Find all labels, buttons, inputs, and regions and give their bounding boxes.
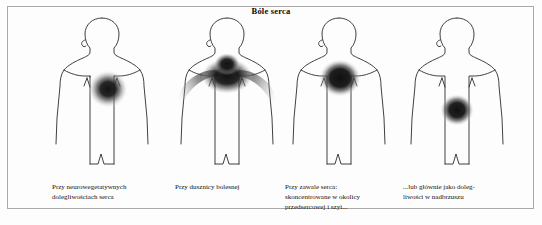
cardiac-pain-figure: Bóle serca bbox=[0, 0, 542, 225]
body-outline-2 bbox=[165, 14, 290, 174]
panel-angina: Przy dusznicy bolesnej bbox=[165, 14, 290, 210]
panel-infarction: Przy zawale serca: skoncentrowane w okol… bbox=[277, 14, 402, 210]
pain-region-3 bbox=[319, 59, 361, 97]
body-outline-3 bbox=[277, 14, 402, 174]
body-outline-1 bbox=[40, 14, 165, 174]
pain-region-2 bbox=[175, 53, 279, 118]
pain-region-4 bbox=[440, 94, 474, 126]
body-outline-4 bbox=[395, 14, 520, 174]
panel-neurovegetative: Przy neurowegetatywnych dolegliwościach … bbox=[40, 14, 165, 210]
figure-title: Bóle serca bbox=[0, 6, 542, 16]
caption-4: ...lub głównie jako doleg- liwości w nad… bbox=[403, 182, 538, 202]
pain-region-1 bbox=[88, 70, 128, 108]
caption-1: Przy neurowegetatywnych dolegliwościach … bbox=[52, 182, 182, 202]
panel-epigastric: ...lub głównie jako doleg- liwości w nad… bbox=[395, 14, 520, 210]
